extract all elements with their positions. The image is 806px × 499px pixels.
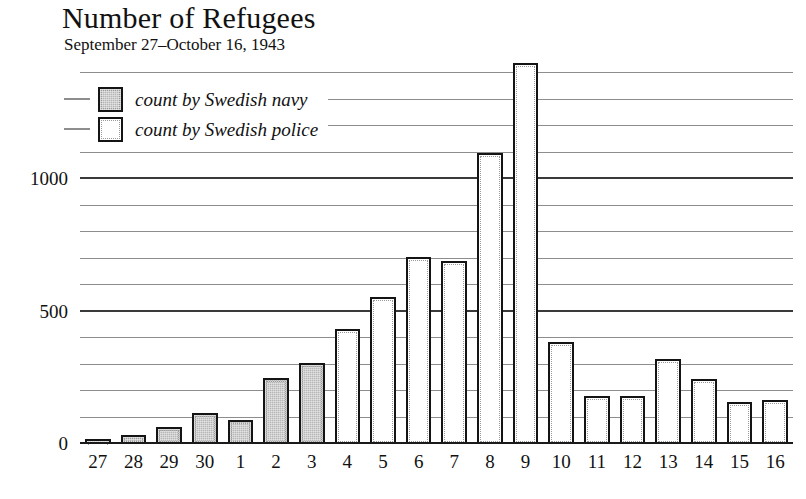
x-tick-label-6: 6 bbox=[401, 452, 437, 471]
x-tick-label-2: 2 bbox=[258, 452, 294, 471]
bar-inner-edge bbox=[444, 264, 464, 442]
bar-slot bbox=[472, 60, 508, 444]
x-tick-label-27: 27 bbox=[80, 452, 116, 471]
bar-slot bbox=[579, 60, 615, 444]
bar-slot bbox=[686, 60, 722, 444]
bar-inner-edge bbox=[516, 66, 536, 442]
legend-gridline-stub bbox=[64, 98, 90, 100]
bar[interactable] bbox=[727, 402, 753, 444]
x-tick-label-7: 7 bbox=[437, 452, 473, 471]
bar[interactable] bbox=[584, 396, 610, 444]
bar-slot bbox=[722, 60, 758, 444]
bar-inner-edge bbox=[266, 381, 286, 442]
bar-inner-edge bbox=[373, 300, 393, 442]
bar-inner-edge bbox=[658, 362, 678, 442]
bar-slot bbox=[757, 60, 793, 444]
bar-inner-edge bbox=[694, 382, 714, 442]
y-tick-label-500: 500 bbox=[0, 302, 68, 321]
x-tick-label-15: 15 bbox=[722, 452, 758, 471]
bar[interactable] bbox=[655, 359, 681, 444]
bar-slot bbox=[330, 60, 366, 444]
x-tick-label-1: 1 bbox=[223, 452, 259, 471]
x-axis-line bbox=[80, 442, 793, 444]
x-tick-label-5: 5 bbox=[365, 452, 401, 471]
bar-inner-edge bbox=[302, 366, 322, 442]
x-tick-label-14: 14 bbox=[686, 452, 722, 471]
y-tick-label-0: 0 bbox=[0, 434, 68, 453]
x-tick-label-30: 30 bbox=[187, 452, 223, 471]
x-tick-label-8: 8 bbox=[472, 452, 508, 471]
bar[interactable] bbox=[477, 153, 503, 444]
x-tick-label-4: 4 bbox=[330, 452, 366, 471]
legend-swatch-icon bbox=[98, 117, 123, 142]
bar[interactable] bbox=[335, 329, 361, 444]
x-tick-label-16: 16 bbox=[757, 452, 793, 471]
bar-inner-edge bbox=[587, 399, 607, 442]
bar-inner-edge bbox=[195, 416, 215, 442]
legend-gridline-stub bbox=[64, 128, 90, 130]
bar[interactable] bbox=[691, 379, 717, 444]
x-tick-label-12: 12 bbox=[615, 452, 651, 471]
page-title: Number of Refugees bbox=[62, 2, 802, 34]
bar[interactable] bbox=[370, 297, 396, 444]
bar[interactable] bbox=[263, 378, 289, 444]
bar-slot bbox=[543, 60, 579, 444]
x-tick-label-29: 29 bbox=[151, 452, 187, 471]
bar-inner-edge bbox=[551, 345, 571, 442]
bar-inner-edge bbox=[765, 403, 785, 442]
x-tick-label-11: 11 bbox=[579, 452, 615, 471]
chart-legend: count by Swedish navycount by Swedish po… bbox=[60, 80, 328, 150]
bar-inner-edge bbox=[623, 399, 643, 442]
chart-figure: Number of Refugees September 27–October … bbox=[0, 0, 806, 499]
bar-inner-edge bbox=[480, 156, 500, 442]
legend-label: count by Swedish police bbox=[135, 120, 318, 139]
bar[interactable] bbox=[299, 363, 325, 444]
bar[interactable] bbox=[406, 257, 432, 444]
bar[interactable] bbox=[762, 400, 788, 444]
bar-slot bbox=[650, 60, 686, 444]
legend-item-navy[interactable]: count by Swedish navy bbox=[64, 84, 318, 114]
y-tick-label-1000: 1000 bbox=[0, 169, 68, 188]
bar-inner-edge bbox=[159, 430, 179, 442]
chart-header: Number of Refugees September 27–October … bbox=[62, 2, 802, 55]
bar-inner-edge bbox=[231, 423, 251, 442]
bar-slot bbox=[508, 60, 544, 444]
bar-inner-edge bbox=[338, 332, 358, 442]
bar[interactable] bbox=[548, 342, 574, 444]
legend-label: count by Swedish navy bbox=[135, 90, 308, 109]
bar-slot bbox=[401, 60, 437, 444]
bar-inner-edge bbox=[730, 405, 750, 442]
bar-slot bbox=[365, 60, 401, 444]
bar[interactable] bbox=[192, 413, 218, 444]
bar-slot bbox=[615, 60, 651, 444]
legend-swatch-icon bbox=[98, 87, 123, 112]
x-tick-label-3: 3 bbox=[294, 452, 330, 471]
legend-swatch-inner-edge bbox=[101, 120, 120, 139]
legend-swatch-inner-edge bbox=[101, 90, 120, 109]
legend-item-police[interactable]: count by Swedish police bbox=[64, 114, 318, 144]
bar[interactable] bbox=[441, 261, 467, 444]
bar[interactable] bbox=[228, 420, 254, 444]
x-tick-label-10: 10 bbox=[543, 452, 579, 471]
bar[interactable] bbox=[513, 63, 539, 444]
bar-inner-edge bbox=[409, 260, 429, 442]
x-tick-label-9: 9 bbox=[508, 452, 544, 471]
x-tick-label-28: 28 bbox=[116, 452, 152, 471]
chart-subtitle: September 27–October 16, 1943 bbox=[64, 36, 802, 55]
bar[interactable] bbox=[620, 396, 646, 444]
bar-slot bbox=[437, 60, 473, 444]
x-tick-label-13: 13 bbox=[650, 452, 686, 471]
